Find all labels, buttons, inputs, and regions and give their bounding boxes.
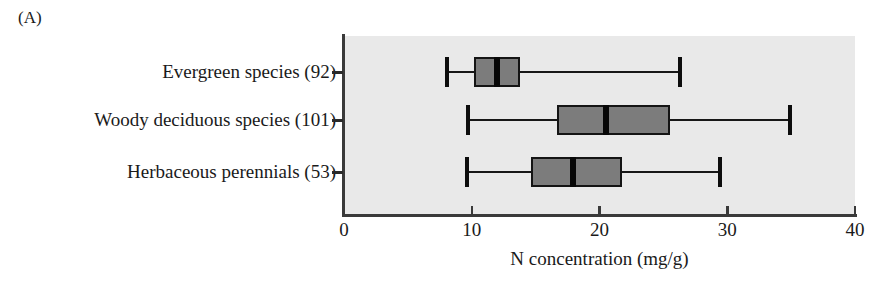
box-iqr-herbaceous-perennials bbox=[531, 157, 623, 187]
boxplot-figure: (A) Evergreen species (92) Woody deciduo… bbox=[0, 0, 878, 290]
whisker-cap-min-herbaceous-perennials bbox=[465, 157, 469, 187]
whisker-upper-herbaceous-perennials bbox=[622, 171, 719, 173]
whisker-lower-herbaceous-perennials bbox=[467, 171, 531, 173]
boxplot-series bbox=[0, 0, 878, 290]
whisker-cap-max-herbaceous-perennials bbox=[718, 157, 722, 187]
boxplot-herbaceous-perennials bbox=[0, 0, 878, 290]
median-herbaceous-perennials bbox=[570, 157, 576, 187]
x-axis-title: N concentration (mg/g) bbox=[344, 248, 855, 270]
